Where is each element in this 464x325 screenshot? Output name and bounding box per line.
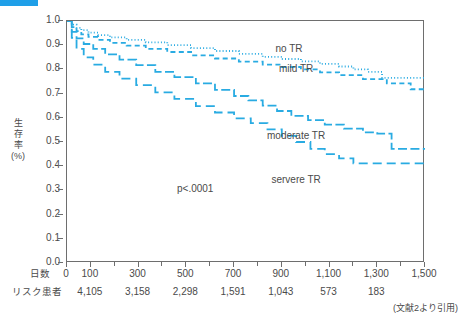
y-tick-label: 0.9 [34,39,60,49]
at-risk-value: 183 [368,286,385,298]
y-tick-label: 0.3 [34,184,60,194]
y-tick-label: 0.1 [34,233,60,243]
survival-curve [67,21,425,164]
x-tick-mark [233,262,234,267]
y-tick-mark [58,214,63,215]
x-tick-mark [90,262,91,267]
series-label: moderate TR [267,130,325,142]
y-tick-mark [58,141,63,142]
y-tick-label: 0.2 [34,209,60,219]
y-tick-label: 0.6 [34,112,60,122]
x-tick-label: 1,300 [364,268,389,280]
series-label: mild TR [279,63,313,75]
y-tick-mark [58,93,63,94]
figure-title [44,0,454,8]
at-risk-value: 3,158 [125,286,150,298]
at-risk-value: 573 [320,286,337,298]
y-tick-mark [58,189,63,190]
pvalue-annotation: p<.0001 [177,183,213,195]
at-risk-value: 2,298 [173,286,198,298]
x-tick-mark [138,262,139,267]
series-label: no TR [275,43,302,55]
y-tick-mark [58,20,63,21]
survival-curve [67,21,425,91]
x-tick-mark [209,262,210,266]
at-risk-row-values: 4,1053,1582,2981,5911,043573183 [0,286,464,300]
x-tick-mark [329,262,330,267]
y-tick-label: 0.4 [34,160,60,170]
x-tick-mark [185,262,186,267]
x-tick-label: 900 [272,268,289,280]
x-axis-labels: 01003005007009001,1001,3001,500 [0,268,464,282]
at-risk-value: 1,591 [221,286,246,298]
x-tick-mark [114,262,115,266]
plot-area: no TRmild TRmoderate TRservere TR p<.000… [66,20,424,262]
y-axis-title-char: (%) [8,151,28,162]
survival-curve-figure: 0.00.10.20.30.40.50.60.70.80.91.0 生存率(%)… [0,0,464,325]
x-tick-mark [305,262,306,266]
x-tick-mark [376,262,377,267]
y-tick-mark [58,117,63,118]
x-tick-label: 700 [225,268,242,280]
y-tick-label: 0.5 [34,136,60,146]
y-tick-label: 1.0 [34,15,60,25]
y-tick-mark [58,165,63,166]
y-axis-title-char: 存 [8,129,28,140]
x-tick-label: 1,100 [316,268,341,280]
survival-curve [67,21,425,150]
y-tick-label: 0.8 [34,63,60,73]
x-tick-mark [66,262,67,267]
x-tick-mark [424,262,425,267]
x-tick-label: 1,500 [411,268,436,280]
at-risk-value: 4,105 [77,286,102,298]
y-tick-label: 0.0 [34,257,60,267]
y-tick-mark [58,262,63,263]
y-axis-title: 生存率(%) [8,118,28,162]
y-axis-title-char: 率 [8,140,28,151]
series-label: servere TR [271,174,320,186]
x-tick-mark [400,262,401,266]
y-tick-mark [58,68,63,69]
y-axis-ticks: 0.00.10.20.30.40.50.60.70.80.91.0 [28,0,60,282]
x-tick-label: 500 [177,268,194,280]
x-tick-mark [352,262,353,266]
y-axis-title-char: 生 [8,118,28,129]
x-tick-mark [281,262,282,267]
x-tick-label: 100 [82,268,99,280]
curves-svg [67,21,425,263]
survival-curve [67,21,425,79]
x-tick-mark [257,262,258,266]
x-tick-mark [161,262,162,266]
x-tick-label: 0 [63,268,69,280]
citation-note: (文献2より引用) [393,302,458,314]
y-tick-label: 0.7 [34,88,60,98]
x-tick-label: 300 [129,268,146,280]
at-risk-value: 1,043 [268,286,293,298]
y-tick-mark [58,238,63,239]
y-tick-mark [58,44,63,45]
